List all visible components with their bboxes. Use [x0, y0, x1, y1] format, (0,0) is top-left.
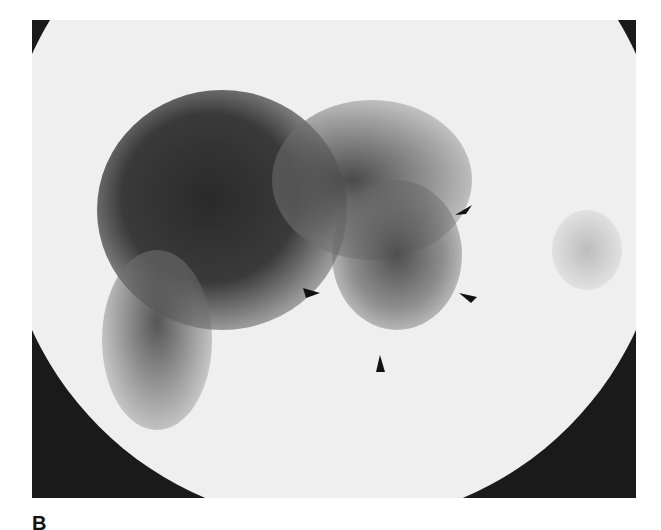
- arrowhead-right-icon: [459, 293, 477, 303]
- panel-label: B: [32, 512, 46, 530]
- arrowhead-left-icon: [303, 288, 320, 298]
- arrowhead-upper-right-icon: [455, 205, 472, 215]
- arrowhead-overlay: [0, 0, 661, 530]
- arrowhead-bottom-icon: [376, 355, 385, 372]
